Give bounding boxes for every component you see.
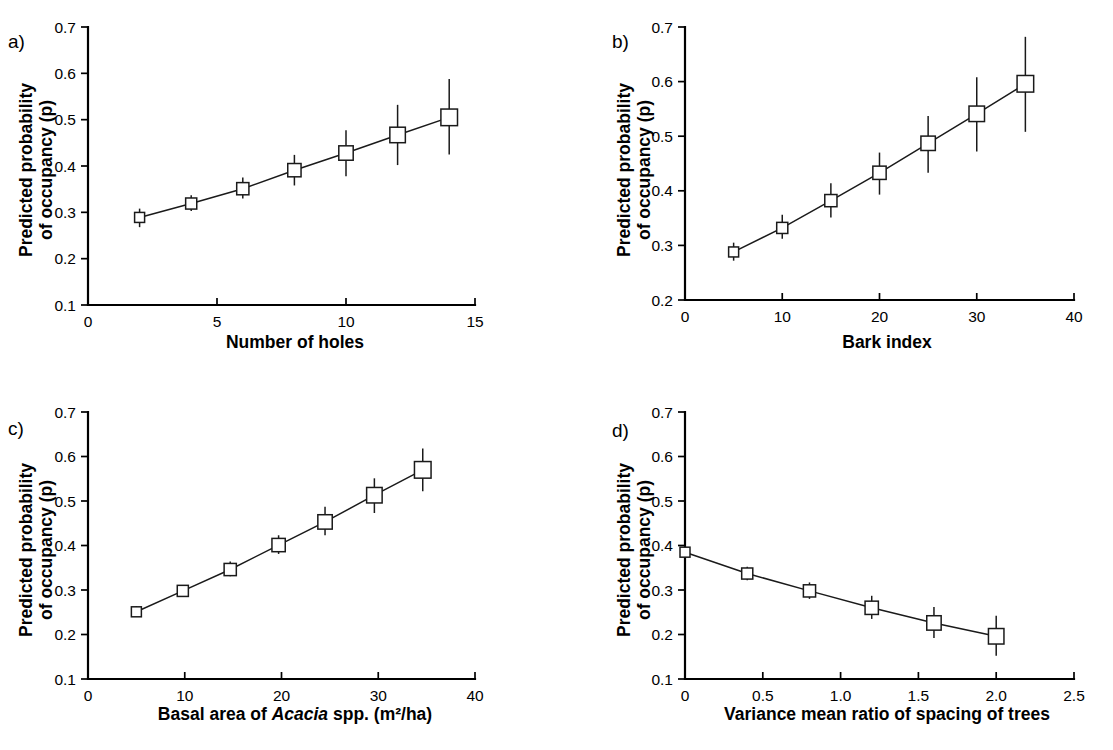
panel-d-svg: d) Predicted probability of occupancy (p… <box>557 375 1113 750</box>
y-tick-label-a-4: 0.5 <box>54 111 76 128</box>
x-tick-labels-a: 051015 <box>84 313 484 330</box>
y-axis-title-line2-c: of occupancy (p) <box>36 480 56 620</box>
plot-series-a <box>135 79 458 227</box>
y-tick-label-d-1: 0.2 <box>651 626 673 643</box>
x-tick-label-b-1: 10 <box>774 308 792 325</box>
data-point-marker-d-4 <box>927 616 941 630</box>
y-tick-labels-b: 0.20.30.40.50.60.7 <box>651 19 673 309</box>
x-tick-labels-b: 010203040 <box>681 308 1083 325</box>
y-axis-title-c: Predicted probability of occupancy (p) <box>16 463 56 637</box>
y-axis-title-line1-d: Predicted probability <box>614 463 634 637</box>
y-tick-label-c-6: 0.7 <box>54 404 76 421</box>
y-tick-label-b-2: 0.4 <box>651 182 673 199</box>
x-tick-label-d-2: 1.0 <box>830 687 852 704</box>
plot-series-b <box>729 37 1034 261</box>
x-tick-label-b-2: 20 <box>871 308 889 325</box>
y-tick-label-b-3: 0.5 <box>651 128 673 145</box>
data-point-marker-a-0 <box>135 212 145 222</box>
y-tick-label-a-2: 0.3 <box>54 204 76 221</box>
x-axis-title-c-pre: Basal area of <box>158 704 272 724</box>
y-axis-title-a: Predicted probability of occupancy (p) <box>16 83 56 257</box>
y-tick-label-a-5: 0.6 <box>54 65 76 82</box>
chart-panel-d: d) Predicted probability of occupancy (p… <box>557 375 1113 750</box>
y-tick-label-d-6: 0.7 <box>651 404 673 421</box>
panel-a-svg: a) Predicted probability of occupancy (p… <box>0 0 556 375</box>
y-tick-label-d-3: 0.4 <box>651 537 673 554</box>
data-point-marker-b-3 <box>873 166 886 179</box>
data-point-marker-b-1 <box>777 222 788 233</box>
y-tick-label-c-4: 0.5 <box>54 493 76 510</box>
x-axis-title-b: Bark index <box>842 332 932 352</box>
y-tick-label-a-3: 0.4 <box>54 158 76 175</box>
x-tick-label-d-4: 2.0 <box>985 687 1007 704</box>
x-tick-label-a-0: 0 <box>84 313 93 330</box>
x-axis-title-c: Basal area of Acacia spp. (m²/ha) <box>158 704 432 724</box>
data-point-marker-c-1 <box>177 585 188 596</box>
x-tick-label-d-0: 0 <box>681 687 690 704</box>
series-line-d <box>685 552 996 636</box>
panel-letter-d: d) <box>612 420 629 441</box>
y-axis-title-line1-c: Predicted probability <box>16 463 36 637</box>
x-tick-label-b-3: 30 <box>968 308 986 325</box>
data-point-marker-a-2 <box>237 183 249 195</box>
data-point-marker-c-0 <box>131 607 141 617</box>
y-tick-label-d-5: 0.6 <box>651 448 673 465</box>
data-point-marker-c-3 <box>272 538 285 551</box>
chart-panel-c: c) Predicted probability of occupancy (p… <box>0 375 556 750</box>
y-tick-label-c-1: 0.2 <box>54 626 76 643</box>
y-axis-title-line1-b: Predicted probability <box>614 83 634 257</box>
data-point-marker-d-5 <box>988 629 1004 645</box>
y-axis-title-line2-b: of occupancy (p) <box>634 100 654 240</box>
panel-letter-a: a) <box>8 31 25 52</box>
y-tick-label-c-5: 0.6 <box>54 448 76 465</box>
y-axis-title-line2-a: of occupancy (p) <box>36 100 56 240</box>
plot-series-d <box>680 547 1004 656</box>
data-point-marker-c-5 <box>367 487 383 503</box>
x-axis-title-d: Variance mean ratio of spacing of trees <box>724 704 1050 724</box>
chart-panel-a: a) Predicted probability of occupancy (p… <box>0 0 556 375</box>
x-tick-label-d-5: 2.5 <box>1063 687 1085 704</box>
y-tick-label-d-2: 0.3 <box>651 582 673 599</box>
x-tick-labels-c: 010203040 <box>84 687 484 704</box>
x-tick-label-b-4: 40 <box>1065 308 1083 325</box>
x-tick-label-a-3: 15 <box>466 313 483 330</box>
y-tick-label-a-6: 0.7 <box>54 19 76 36</box>
data-point-marker-d-3 <box>865 601 878 614</box>
x-axis-title-c-post: spp. (m²/ha) <box>328 704 432 724</box>
y-axis-title-line1-a: Predicted probability <box>16 83 36 257</box>
x-tick-label-c-1: 10 <box>176 687 194 704</box>
y-tick-label-b-5: 0.7 <box>651 19 673 36</box>
x-tick-label-a-1: 5 <box>213 313 222 330</box>
x-tick-label-c-3: 30 <box>370 687 388 704</box>
x-tick-label-d-3: 1.5 <box>908 687 930 704</box>
panel-letter-c: c) <box>8 418 24 439</box>
axes-d <box>678 412 1074 679</box>
data-point-marker-b-0 <box>729 247 739 257</box>
data-point-marker-a-3 <box>288 164 301 177</box>
data-point-marker-a-6 <box>441 109 458 126</box>
y-tick-labels-c: 0.10.20.30.40.50.60.7 <box>54 404 76 688</box>
x-axis-title-a: Number of holes <box>226 332 364 352</box>
x-tick-label-c-4: 40 <box>466 687 484 704</box>
figure-container: a) Predicted probability of occupancy (p… <box>0 0 1113 750</box>
axes-a <box>81 27 475 305</box>
data-point-marker-a-1 <box>186 198 197 209</box>
x-tick-label-b-0: 0 <box>681 308 690 325</box>
panel-b-svg: b) Predicted probability of occupancy (p… <box>557 0 1113 375</box>
data-point-marker-a-5 <box>390 127 406 143</box>
y-tick-label-d-0: 0.1 <box>651 671 673 688</box>
plot-series-c <box>131 448 431 616</box>
y-tick-label-c-2: 0.3 <box>54 582 76 599</box>
y-tick-label-b-0: 0.2 <box>651 292 673 309</box>
data-point-marker-d-1 <box>742 568 753 579</box>
y-tick-label-d-4: 0.5 <box>651 493 673 510</box>
data-point-marker-b-6 <box>1017 75 1034 92</box>
y-tick-label-a-1: 0.2 <box>54 250 76 267</box>
data-point-marker-d-0 <box>680 547 690 557</box>
chart-panel-b: b) Predicted probability of occupancy (p… <box>557 0 1113 375</box>
panel-letter-b: b) <box>612 31 629 52</box>
data-point-marker-a-4 <box>339 146 353 160</box>
data-point-marker-d-2 <box>803 585 815 597</box>
x-tick-label-d-1: 0.5 <box>752 687 774 704</box>
y-tick-labels-a: 0.10.20.30.40.50.60.7 <box>54 19 76 314</box>
